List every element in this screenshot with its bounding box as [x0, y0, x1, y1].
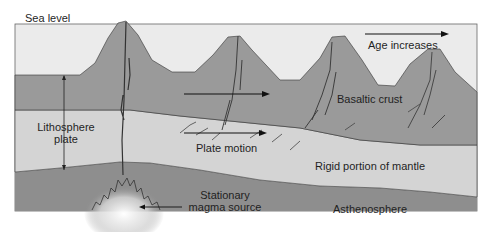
plate-motion-label: Plate motion [196, 142, 257, 154]
magma-source-label-line1: Stationary [185, 189, 265, 201]
basaltic-crust-label: Basaltic crust [337, 93, 402, 105]
age-increases-label: Age increases [368, 39, 438, 51]
lithosphere-label-line1: Lithosphere [36, 121, 96, 133]
magma-source-label: Stationary magma source [185, 189, 265, 213]
lithosphere-plate-label: Lithosphere plate [36, 121, 96, 145]
sea-level-label: Sea level [25, 12, 70, 24]
rigid-mantle-label: Rigid portion of mantle [315, 160, 425, 172]
asthenosphere-label: Asthenosphere [333, 203, 407, 215]
magma-source-label-line2: magma source [185, 201, 265, 213]
lithosphere-label-line2: plate [36, 133, 96, 145]
